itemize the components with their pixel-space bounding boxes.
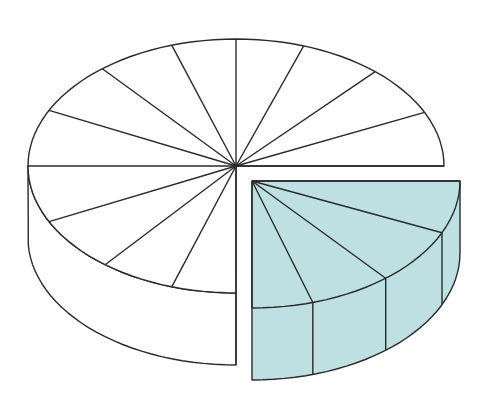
exploded-pie-diagram: [0, 0, 489, 399]
exploded-quarter-slice: [252, 181, 460, 380]
slice-silhouette: [252, 181, 460, 380]
